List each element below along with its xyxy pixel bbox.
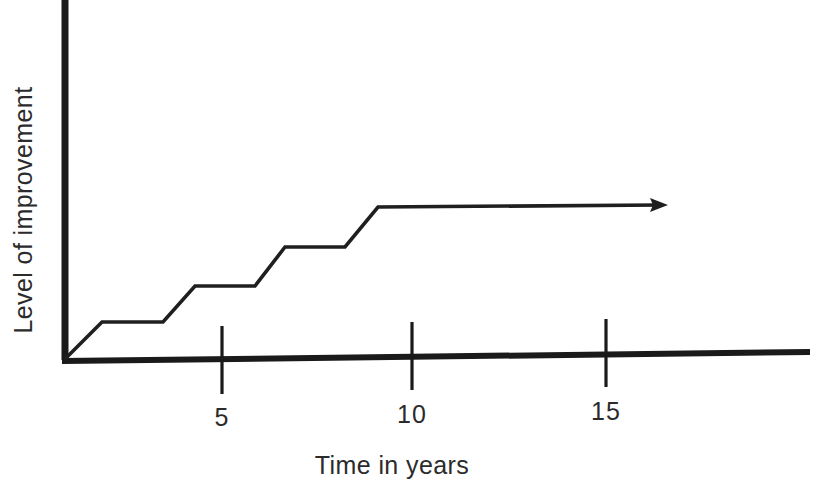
x-tick-label-10: 10	[397, 400, 427, 428]
y-axis-title: Level of improvement	[9, 86, 37, 333]
chart-figure: 5 10 15 Time in years Level of improveme…	[0, 0, 814, 489]
x-tick-label-15: 15	[591, 397, 621, 425]
chart-canvas: 5 10 15 Time in years Level of improveme…	[0, 0, 814, 489]
x-tick-label-5: 5	[215, 403, 230, 431]
x-axis-title: Time in years	[315, 451, 469, 479]
